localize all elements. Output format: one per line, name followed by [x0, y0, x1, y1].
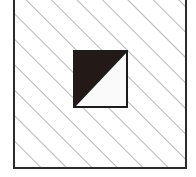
technical-figure: [0, 0, 196, 177]
figure-canvas: [0, 0, 196, 177]
